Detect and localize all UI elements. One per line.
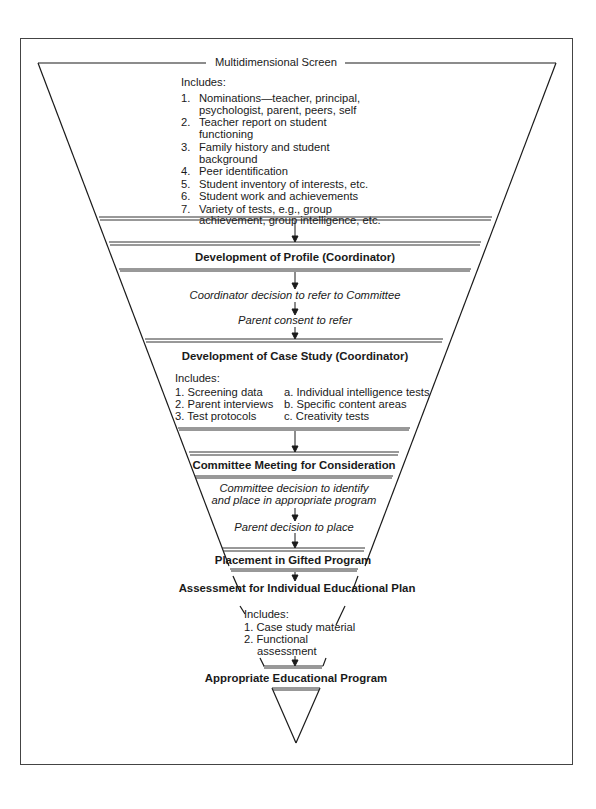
list-item: 4.Peer identification <box>181 165 288 178</box>
profile-title: Development of Profile (Coordinator) <box>195 251 395 264</box>
list-item-cont: achievement, group intelligence, etc. <box>181 214 381 227</box>
committee-title: Committee Meeting for Consideration <box>192 459 395 472</box>
case-study-left-item: 3. Test protocols <box>175 410 256 423</box>
referral-step-parent-consent: Parent consent to refer <box>238 314 352 327</box>
program-title: Appropriate Educational Program <box>205 672 387 685</box>
screen-includes-label: Includes: <box>181 76 226 89</box>
assessment-item-cont: assessment <box>257 645 317 658</box>
screen-title: Multidimensional Screen <box>212 56 340 69</box>
assessment-includes-label: Includes: <box>244 608 289 621</box>
apex-right-side <box>296 688 320 743</box>
funnel-right-side <box>365 63 556 566</box>
case-study-right-item: c. Creativity tests <box>284 410 369 423</box>
parent-decision: Parent decision to place <box>234 521 353 534</box>
apex-left-side <box>272 688 296 743</box>
case-study-title: Development of Case Study (Coordinator) <box>182 350 409 363</box>
placement-title: Placement in Gifted Program <box>215 554 371 567</box>
referral-step-coordinator: Coordinator decision to refer to Committ… <box>190 289 401 302</box>
list-item-cont: functioning <box>181 128 253 141</box>
case-study-includes-label: Includes: <box>175 372 220 385</box>
assessment-title: Assessment for Individual Educational Pl… <box>179 582 416 595</box>
committee-decision-line: and place in appropriate program <box>212 494 377 507</box>
list-item: 6.Student work and achievements <box>181 190 358 203</box>
